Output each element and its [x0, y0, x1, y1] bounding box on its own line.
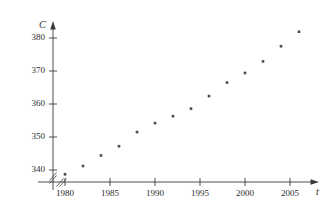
x-tick-label-2005: 2005 — [274, 189, 306, 198]
y-tick-label-350: 350 — [20, 132, 45, 141]
data-point — [226, 81, 229, 84]
data-point-layer — [64, 30, 301, 175]
y-tick-label-360: 360 — [20, 99, 45, 108]
data-point — [208, 95, 211, 98]
x-tick-label-1985: 1985 — [94, 189, 126, 198]
x-tick-label-1980: 1980 — [49, 189, 81, 198]
data-point — [262, 60, 265, 63]
data-point — [244, 72, 247, 75]
data-point — [82, 165, 85, 168]
x-tick-label-2000: 2000 — [229, 189, 261, 198]
y-tick-label-370: 370 — [20, 66, 45, 75]
data-point — [118, 145, 121, 148]
data-point — [154, 122, 157, 125]
data-point — [100, 154, 103, 157]
y-tick-label-380: 380 — [20, 33, 45, 42]
x-axis-arrow-icon — [311, 179, 320, 185]
data-point — [64, 173, 67, 176]
scatter-plot-svg — [0, 0, 329, 217]
y-tick-label-340: 340 — [20, 165, 45, 174]
y-axis-title: C — [39, 20, 46, 30]
x-tick-label-1995: 1995 — [184, 189, 216, 198]
data-point — [172, 115, 175, 118]
data-point — [190, 107, 193, 110]
y-axis-group — [49, 21, 57, 190]
data-point — [280, 45, 283, 48]
data-point — [298, 30, 301, 33]
chart-container: C t 340350360370380 19801985199019952000… — [0, 0, 329, 217]
x-tick-label-1990: 1990 — [139, 189, 171, 198]
x-axis-title: t — [316, 187, 319, 197]
data-point — [136, 131, 139, 134]
x-axis-group — [38, 178, 319, 187]
y-axis-arrow-icon — [50, 21, 56, 30]
